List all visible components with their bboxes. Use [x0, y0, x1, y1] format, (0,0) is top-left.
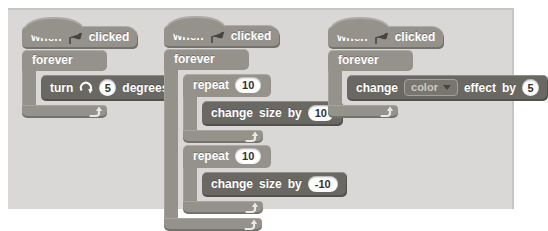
forever-spine [22, 71, 36, 105]
repeat-block[interactable]: repeat 10 change size by -10 [183, 145, 347, 214]
change-label: change [211, 177, 253, 191]
forever-block-label[interactable]: forever [164, 49, 249, 70]
clicked-label: clicked [231, 29, 272, 43]
forever-spine [164, 70, 178, 218]
forever-block-label[interactable]: forever [328, 50, 413, 71]
forever-block-label[interactable]: forever [22, 50, 107, 71]
when-label: when [173, 29, 204, 43]
forever-loop-arm [22, 105, 107, 118]
repeat-count-input[interactable]: 10 [235, 148, 261, 164]
repeat-block-label[interactable]: repeat 10 [183, 74, 271, 97]
repeat-loop-arm [183, 130, 263, 143]
when-flag-clicked-block[interactable]: when clicked [164, 25, 280, 48]
change-effect-block[interactable]: change color effect by 5 [347, 75, 548, 101]
effect-dropdown[interactable]: color [404, 79, 458, 96]
turn-label: turn [50, 81, 73, 95]
forever-spine [328, 71, 342, 105]
forever-block[interactable]: forever repeat 10 change [164, 49, 347, 231]
green-flag-icon [68, 31, 83, 44]
loop-arrow-icon [244, 219, 257, 231]
by-label: by [288, 106, 302, 120]
script-stack-turn: when clicked forever turn 5 [22, 16, 177, 118]
repeat-label: repeat [193, 78, 229, 92]
script-stack-size: when clicked forever repeat 10 [164, 15, 347, 231]
forever-loop-arm [328, 105, 398, 118]
loop-arrow-icon [245, 202, 258, 214]
effect-dropdown-value: color [411, 81, 438, 93]
change-size-block[interactable]: change size by -10 [202, 172, 347, 197]
loop-arrow-icon [245, 131, 258, 143]
change-size-block[interactable]: change size by 10 [202, 101, 343, 126]
turn-degrees-block[interactable]: turn 5 degrees [41, 75, 177, 101]
forever-loop-arm [164, 218, 262, 231]
effect-label: effect [464, 81, 496, 95]
repeat-spine [183, 168, 197, 201]
clicked-label: clicked [89, 30, 130, 44]
forever-label: forever [32, 53, 73, 67]
size-value-input[interactable]: -10 [308, 176, 338, 192]
forever-label: forever [338, 53, 379, 67]
scripts-area: when clicked forever turn 5 [8, 8, 514, 209]
clicked-label: clicked [395, 30, 436, 44]
when-label: when [31, 30, 62, 44]
change-label: change [211, 106, 253, 120]
green-flag-icon [210, 30, 225, 43]
repeat-label: repeat [193, 149, 229, 163]
degrees-label: degrees [122, 81, 168, 95]
when-flag-clicked-block[interactable]: when clicked [22, 26, 138, 49]
loop-arrow-icon [89, 106, 102, 118]
forever-block[interactable]: forever turn 5 degrees [22, 50, 177, 118]
repeat-block-label[interactable]: repeat 10 [183, 145, 271, 168]
degrees-value-input[interactable]: 5 [99, 79, 116, 96]
dropdown-arrow-icon [443, 85, 451, 90]
rotate-clockwise-icon [79, 81, 93, 94]
forever-block[interactable]: forever change color effect by 5 [328, 50, 548, 118]
loop-arrow-icon [380, 106, 393, 118]
size-label: size [259, 106, 282, 120]
forever-label: forever [174, 52, 215, 66]
repeat-spine [183, 97, 197, 130]
by-label: by [288, 177, 302, 191]
repeat-loop-arm [183, 201, 263, 214]
when-label: when [337, 30, 368, 44]
repeat-count-input[interactable]: 10 [235, 77, 261, 93]
effect-value-input[interactable]: 5 [522, 79, 539, 96]
by-label: by [502, 81, 516, 95]
when-flag-clicked-block[interactable]: when clicked [328, 26, 444, 49]
script-stack-effect: when clicked forever change color [328, 16, 548, 118]
size-label: size [259, 177, 282, 191]
change-label: change [356, 81, 398, 95]
green-flag-icon [374, 31, 389, 44]
repeat-block[interactable]: repeat 10 change size by 10 [183, 74, 347, 143]
